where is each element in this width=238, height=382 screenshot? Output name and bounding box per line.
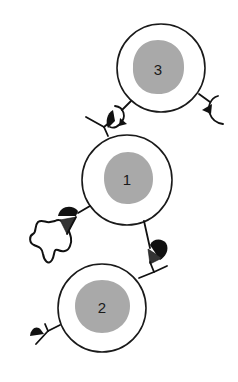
cell-signaling-diagram: 3 1 2 [0, 0, 238, 382]
cell-2-label: 2 [98, 299, 106, 316]
cell-3: 3 [117, 24, 205, 112]
cell-1-label: 1 [123, 171, 131, 188]
cup-receptor-icon [199, 94, 223, 124]
triangle-ligand-icon [30, 324, 60, 344]
cell-3-label: 3 [154, 61, 162, 78]
cell-1: 1 [82, 135, 172, 225]
bound-receptor-icon [139, 221, 167, 278]
cell-2: 2 [58, 264, 146, 352]
bound-receptor-icon [86, 101, 131, 136]
